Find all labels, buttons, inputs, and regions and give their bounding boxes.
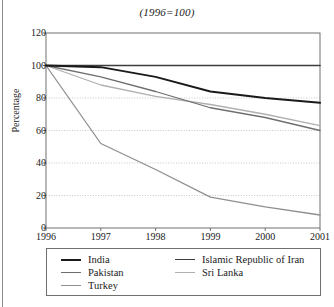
plot-area-wrapper: Percentage 020406080100120 1996199719981… (0, 0, 334, 245)
series-line (46, 66, 320, 216)
y-tick-label: 80 (20, 93, 46, 103)
legend-label: Islamic Republic of Iran (202, 254, 304, 265)
line-chart-plot (0, 0, 334, 245)
x-tick-label: 1997 (81, 231, 121, 242)
legend-item: India (61, 253, 124, 266)
x-tick-label: 1999 (190, 231, 230, 242)
chart-legend: IndiaPakistanTurkey Islamic Republic of … (46, 248, 321, 296)
x-tick-label: 2001 (300, 231, 334, 242)
figure-container: (1996=100) Percentage 020406080100120 19… (0, 0, 334, 307)
series-line (46, 66, 320, 103)
x-tick-label: 1998 (136, 231, 176, 242)
y-tick-label: 100 (20, 61, 46, 71)
legend-item: Turkey (61, 279, 124, 292)
x-tick-label: 1996 (26, 231, 66, 242)
legend-label: Pakistan (88, 267, 124, 278)
legend-swatch-icon (175, 272, 195, 273)
y-tick-label: 120 (20, 28, 46, 38)
plot-frame (46, 33, 320, 228)
legend-item: Pakistan (61, 266, 124, 279)
legend-label: Sri Lanka (202, 267, 243, 278)
legend-swatch-icon (61, 259, 81, 261)
y-tick-label: 20 (20, 191, 46, 201)
legend-swatch-icon (61, 285, 81, 286)
legend-column-1: IndiaPakistanTurkey (61, 253, 124, 292)
legend-swatch-icon (175, 259, 195, 260)
y-axis-tick-labels: 020406080100120 (14, 0, 46, 245)
y-tick-label: 60 (20, 126, 46, 136)
legend-label: India (88, 254, 110, 265)
legend-item: Islamic Republic of Iran (175, 253, 304, 266)
legend-label: Turkey (88, 280, 118, 291)
x-tick-label: 2000 (245, 231, 285, 242)
legend-swatch-icon (61, 272, 81, 273)
series-line (46, 66, 320, 131)
y-tick-label: 40 (20, 158, 46, 168)
legend-column-2: Islamic Republic of IranSri Lanka (175, 253, 304, 279)
legend-item: Sri Lanka (175, 266, 304, 279)
